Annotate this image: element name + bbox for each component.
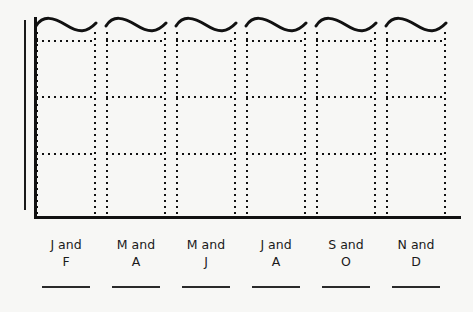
category-underline [112,286,160,288]
category-label-1: J andF [36,236,96,270]
category-label-3: M andJ [176,236,236,270]
category-label-line1: S and [316,236,376,253]
category-label-line2: D [386,253,446,270]
bar-2[interactable] [106,22,166,217]
axis-break-wave-icon [384,14,448,36]
gridline-1 [36,40,96,42]
bar-6[interactable] [386,22,446,217]
bar-left-edge [106,32,108,217]
gridline-2 [386,96,446,98]
category-label-row: J andFM andAM andJJ andAS andON andD [36,236,446,306]
category-label-line1: M and [176,236,236,253]
gridline-1 [386,40,446,42]
gridline-2 [316,96,376,98]
category-label-line2: A [106,253,166,270]
axis-break-wave-icon [174,14,238,36]
bar-5[interactable] [316,22,376,217]
gridline-1 [176,40,236,42]
category-underline [182,286,230,288]
gridline-2 [246,96,306,98]
category-label-line1: J and [36,236,96,253]
gridline-2 [36,96,96,98]
category-label-line2: O [316,253,376,270]
category-label-line2: J [176,253,236,270]
axis-break-wave-icon [244,14,308,36]
axis-break-wave-icon [104,14,168,36]
gridline-2 [176,96,236,98]
category-label-line1: J and [246,236,306,253]
category-underline [252,286,300,288]
bar-left-edge [246,32,248,217]
gridline-1 [246,40,306,42]
category-label-line1: N and [386,236,446,253]
category-label-line1: M and [106,236,166,253]
category-label-6: N andD [386,236,446,270]
bar-3[interactable] [176,22,236,217]
gridline-3 [386,153,446,155]
category-label-line2: A [246,253,306,270]
gridline-3 [106,153,166,155]
axis-break-wave-icon [314,14,378,36]
category-label-line2: F [36,253,96,270]
bar-right-edge [304,32,306,217]
gridline-3 [176,153,236,155]
bar-right-edge [374,32,376,217]
chart-canvas: J andFM andAM andJJ andAS andON andD [0,0,473,312]
y-axis-outer-line [24,20,26,210]
gridline-3 [36,153,96,155]
plot-area [36,22,446,217]
bar-1[interactable] [36,22,96,217]
bar-left-edge [386,32,388,217]
bar-left-edge [316,32,318,217]
gridline-1 [106,40,166,42]
gridline-1 [316,40,376,42]
gridline-3 [316,153,376,155]
bar-right-edge [234,32,236,217]
bar-right-edge [94,32,96,217]
bar-right-edge [164,32,166,217]
bar-right-edge [444,32,446,217]
category-label-4: J andA [246,236,306,270]
bar-4[interactable] [246,22,306,217]
axis-break-wave-icon [34,14,98,36]
category-label-2: M andA [106,236,166,270]
category-underline [392,286,440,288]
category-underline [322,286,370,288]
gridline-2 [106,96,166,98]
gridline-3 [246,153,306,155]
category-label-5: S andO [316,236,376,270]
bar-left-edge [176,32,178,217]
bar-left-edge [36,32,38,217]
category-underline [42,286,90,288]
